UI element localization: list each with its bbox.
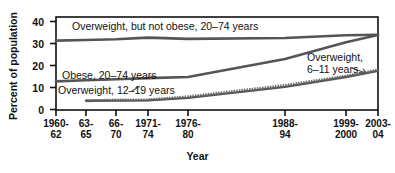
x-tick-label-2003-04-top: 2003-: [355, 118, 395, 129]
annotation-obese: Obese, 20–74 years: [62, 69, 157, 81]
chart-figure: Percent of population 40 30 20 10 0: [0, 0, 395, 173]
x-tick-label-1988-94: 1988- 94: [262, 118, 308, 140]
annotation-overweight-6-11-line1: Overweight,: [307, 51, 363, 63]
x-tick-label-1988-94-top: 1988-: [262, 118, 308, 129]
x-tick-label-1988-94-bottom: 94: [262, 129, 308, 140]
annotation-overweight-12-19: Overweight, 12–19 years: [58, 84, 175, 96]
x-tick-label-2003-04: 2003- 04: [355, 118, 395, 140]
x-tick-label-1976-80: 1976- 80: [165, 118, 211, 140]
annotation-overweight-not-obese: Overweight, but not obese, 20–74 years: [72, 20, 258, 32]
y-axis-ticks: [50, 22, 56, 110]
x-axis-ticks: [56, 110, 378, 116]
x-axis-title: Year: [0, 150, 395, 162]
x-tick-label-2003-04-bottom: 04: [355, 129, 395, 140]
x-tick-label-1976-80-top: 1976-: [165, 118, 211, 129]
x-tick-label-1976-80-bottom: 80: [165, 129, 211, 140]
annotation-overweight-6-11: Overweight, 6–11 years: [307, 51, 363, 75]
annotation-overweight-6-11-line2: 6–11 years: [307, 63, 363, 75]
